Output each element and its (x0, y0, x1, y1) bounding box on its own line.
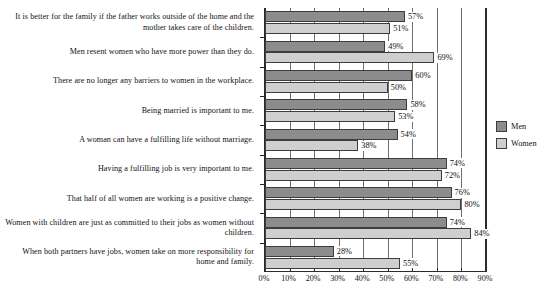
bar-value-label: 58% (409, 100, 426, 110)
chart-legend: MenWomen (496, 118, 546, 152)
plot-area: 57%51%49%69%60%50%58%53%54%38%74%72%76%8… (264, 8, 486, 272)
bar-value-label: 53% (397, 112, 414, 122)
bar-value-label: 49% (387, 41, 404, 51)
bar-men (265, 11, 405, 22)
bar-value-label: 80% (463, 200, 480, 210)
bar-women (265, 140, 358, 151)
bar-value-label: 84% (473, 229, 490, 239)
bar-men (265, 217, 447, 228)
bar-value-label: 60% (414, 70, 431, 80)
bar-men (265, 246, 334, 257)
x-axis-tick (461, 268, 462, 272)
category-label: Being married is important to me. (2, 106, 254, 116)
x-tick-label: 80% (453, 274, 468, 284)
bar-men (265, 187, 452, 198)
legend-swatch-men-icon (496, 121, 507, 132)
bar-value-label: 57% (407, 12, 424, 22)
legend-label: Women (511, 139, 537, 149)
x-tick-label: 90% (478, 274, 493, 284)
bar-women (265, 199, 461, 210)
category-label: Men resent women who have more power tha… (2, 47, 254, 57)
bar-value-label: 51% (392, 24, 409, 34)
bar-men (265, 158, 447, 169)
grouped-bar-chart: It is better for the family if the fathe… (0, 0, 546, 296)
bar-women (265, 258, 400, 269)
legend-swatch-women-icon (496, 138, 507, 149)
x-axis-tick (437, 268, 438, 272)
x-tick-label: 20% (306, 274, 321, 284)
category-separator-tick (260, 96, 265, 97)
bar-men (265, 99, 407, 110)
bar-women (265, 170, 442, 181)
category-label: A woman can have a fulfilling life witho… (2, 135, 254, 145)
bar-value-label: 74% (449, 217, 466, 227)
category-separator-tick (260, 243, 265, 244)
category-separator-tick (260, 67, 265, 68)
bar-value-label: 28% (336, 246, 353, 256)
category-separator-tick (260, 213, 265, 214)
bar-value-label: 76% (454, 188, 471, 198)
bar-value-label: 54% (400, 129, 417, 139)
bar-men (265, 70, 412, 81)
category-separator-tick (260, 155, 265, 156)
x-tick-label: 70% (428, 274, 443, 284)
bar-women (265, 111, 395, 122)
x-tick-label: 50% (379, 274, 394, 284)
x-axis-tick (486, 268, 487, 272)
x-tick-label: 30% (330, 274, 345, 284)
x-tick-label: 40% (355, 274, 370, 284)
category-label: When both partners have jobs, women take… (2, 247, 254, 268)
bar-value-label: 74% (449, 158, 466, 168)
bar-value-label: 72% (444, 170, 461, 180)
x-axis-tick (412, 268, 413, 272)
category-separator-tick (260, 184, 265, 185)
bar-men (265, 129, 398, 140)
bar-value-label: 38% (360, 141, 377, 151)
bar-women (265, 82, 388, 93)
category-separator-tick (260, 37, 265, 38)
category-label: Women with children are just as committe… (2, 218, 254, 239)
category-separator-tick (260, 125, 265, 126)
bar-value-label: 50% (390, 82, 407, 92)
x-axis-tick-labels: 0%10%20%30%40%50%60%70%80%90% (264, 274, 486, 288)
legend-item-men: Men (496, 118, 546, 135)
bar-women (265, 228, 471, 239)
category-label: Having a fulfilling job is very importan… (2, 164, 254, 174)
category-label: That half of all women are working is a … (2, 194, 254, 204)
x-tick-label: 10% (281, 274, 296, 284)
category-label: There are no longer any barriers to wome… (2, 76, 254, 86)
bar-value-label: 55% (402, 258, 419, 268)
bar-women (265, 23, 390, 34)
bar-women (265, 52, 434, 63)
x-tick-label: 0% (259, 274, 270, 284)
bar-value-label: 69% (436, 53, 453, 63)
category-label: It is better for the family if the fathe… (2, 12, 254, 33)
bar-men (265, 41, 385, 52)
legend-label: Men (511, 122, 526, 132)
category-label-column: It is better for the family if the fathe… (0, 8, 258, 272)
x-tick-label: 60% (404, 274, 419, 284)
legend-item-women: Women (496, 135, 546, 152)
